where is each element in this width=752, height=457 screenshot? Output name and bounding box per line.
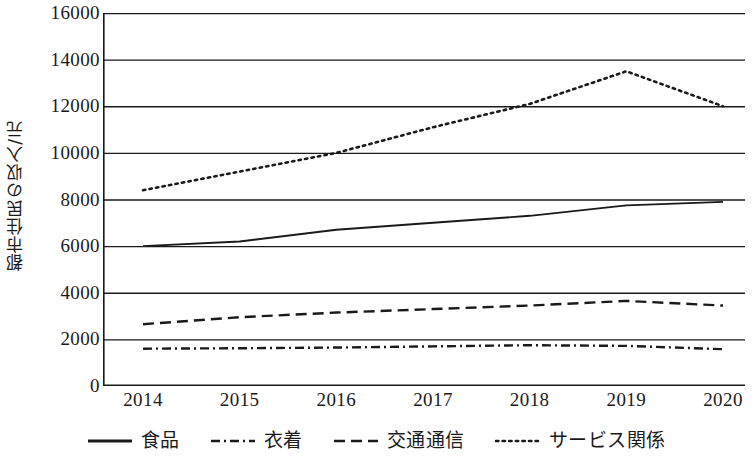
x-axis-tick-labels: 2014201520162017201820192020 — [0, 388, 752, 418]
legend-label: 衣着 — [264, 431, 303, 450]
y-axis-tick-label: 2000 — [30, 329, 100, 348]
series-line — [143, 301, 723, 324]
y-axis-tick-label: 6000 — [30, 236, 100, 255]
y-axis-tick-label: 10000 — [30, 143, 100, 162]
chart-legend: 食品衣着交通通信サービス関係 — [0, 424, 752, 457]
y-axis-tick-label: 12000 — [30, 96, 100, 115]
line-chart-figure: 都市住民の収入/元 020004000600080001000012000140… — [0, 0, 752, 457]
series-line — [143, 345, 723, 349]
plot-area — [103, 13, 745, 386]
legend-label: 交通通信 — [387, 431, 465, 450]
legend-line-swatch — [495, 434, 541, 448]
plot-svg — [103, 13, 745, 386]
legend-item[interactable]: 交通通信 — [333, 431, 465, 450]
y-axis-tick-label: 16000 — [30, 3, 100, 22]
x-axis-tick-label: 2017 — [413, 388, 453, 412]
x-axis-tick-label: 2016 — [317, 388, 357, 412]
x-axis-tick-label: 2020 — [703, 388, 743, 412]
legend-item[interactable]: 食品 — [87, 431, 180, 450]
legend-label: 食品 — [141, 431, 180, 450]
y-axis-tick-label: 14000 — [30, 50, 100, 69]
legend-line-swatch — [87, 434, 133, 448]
legend-label: サービス関係 — [549, 431, 666, 450]
x-axis-tick-label: 2019 — [607, 388, 647, 412]
axis-frame — [104, 13, 745, 385]
y-axis-tick-label: 4000 — [30, 283, 100, 302]
x-axis-tick-label: 2014 — [123, 388, 163, 412]
legend-item[interactable]: 衣着 — [210, 431, 303, 450]
y-axis-title-text: 都市住民の収入/元 — [2, 120, 27, 271]
legend-line-swatch — [210, 434, 256, 448]
y-axis-tick-label: 8000 — [30, 190, 100, 209]
x-axis-tick-label: 2018 — [510, 388, 550, 412]
series-line — [143, 71, 723, 190]
x-axis-tick-label: 2015 — [220, 388, 260, 412]
y-axis-title: 都市住民の収入/元 — [0, 0, 28, 390]
series-line — [143, 202, 723, 246]
legend-line-swatch — [333, 434, 379, 448]
legend-item[interactable]: サービス関係 — [495, 431, 666, 450]
